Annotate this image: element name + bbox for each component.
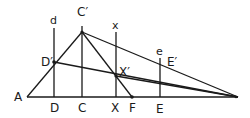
point-Cp	[80, 30, 83, 33]
label-d: d	[50, 14, 57, 27]
label-C: C	[78, 101, 86, 115]
diagram-svg: A D C X F E D′ C′ X′ E′ d x e	[0, 0, 250, 118]
label-Ep: E′	[167, 55, 178, 69]
label-x: x	[112, 19, 119, 32]
geometry-diagram: A D C X F E D′ C′ X′ E′ d x e	[0, 0, 250, 118]
label-e: e	[156, 45, 163, 58]
line-Xp-Z	[116, 76, 238, 97]
label-A: A	[14, 90, 23, 104]
label-E: E	[156, 102, 164, 116]
point-Z	[235, 96, 237, 98]
label-Xp: X′	[119, 65, 130, 79]
label-Dp: D′	[41, 55, 53, 69]
label-D: D	[50, 101, 59, 115]
label-X: X	[111, 101, 119, 115]
point-Xp	[114, 74, 117, 77]
label-Cp: C′	[77, 5, 88, 19]
point-F	[130, 95, 134, 99]
label-F: F	[129, 101, 136, 115]
